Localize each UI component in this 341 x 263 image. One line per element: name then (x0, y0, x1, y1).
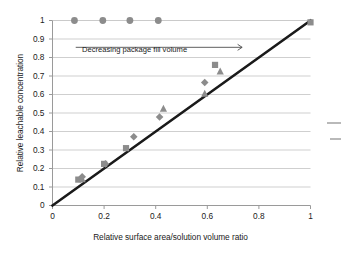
page-edge-artifact-upper (327, 122, 341, 124)
y-tick-label-1: 0.1 (21, 182, 45, 192)
y-tick-label-4: 0.4 (21, 126, 45, 136)
data-point-circle-2 (126, 17, 133, 24)
series-triangle (79, 67, 224, 182)
x-tick-label-5: 1 (299, 211, 323, 221)
x-tick-label-2: 0.4 (144, 211, 168, 221)
y-tick-label-3: 0.3 (21, 145, 45, 155)
x-tick-label-3: 0.6 (195, 211, 219, 221)
data-point-circle-1 (99, 17, 106, 24)
data-points-group (71, 17, 314, 183)
y-tick-label-6: 0.6 (21, 89, 45, 99)
y-tick-label-0: 0 (21, 200, 45, 210)
data-point-square-3 (212, 62, 218, 68)
x-tick-label-1: 0.2 (92, 211, 116, 221)
y-tick-label-5: 0.5 (21, 108, 45, 118)
data-point-diamond-2 (130, 133, 138, 141)
chart-figure: Relative leachable concentration Relativ… (0, 0, 341, 263)
data-point-circle-0 (71, 17, 78, 24)
annotation-label-decreasing-fill-volume: Decreasing package fill volume (82, 45, 187, 54)
data-point-diamond-3 (156, 113, 164, 121)
y-tick-label-9: 0.9 (21, 34, 45, 44)
x-tick-label-0: 0 (41, 211, 65, 221)
data-point-diamond-4 (201, 79, 209, 87)
series-diamond (78, 79, 208, 181)
data-point-circle-3 (155, 17, 162, 24)
y-tick-label-8: 0.8 (21, 52, 45, 62)
y-tick-label-7: 0.7 (21, 71, 45, 81)
x-axis-title: Relative surface area/solution volume ra… (0, 232, 341, 242)
x-tick-label-4: 0.8 (247, 211, 271, 221)
data-point-square-2 (123, 145, 129, 151)
y-tick-label-10: 1 (21, 15, 45, 25)
data-point-square-4 (307, 19, 313, 25)
page-edge-artifact-lower (330, 138, 341, 140)
scatter-plot-canvas (0, 0, 341, 263)
data-point-triangle-3 (217, 67, 224, 74)
y-tick-label-2: 0.2 (21, 163, 45, 173)
data-point-triangle-1 (160, 105, 167, 112)
